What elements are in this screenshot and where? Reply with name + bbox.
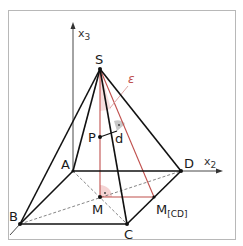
edge-sa bbox=[73, 69, 100, 171]
edge-ab bbox=[20, 171, 73, 224]
label-a: A bbox=[61, 158, 70, 171]
apothem-s-mcd bbox=[100, 69, 154, 197]
point-c bbox=[125, 222, 129, 226]
label-plane-epsilon: ε bbox=[128, 73, 135, 85]
point-m bbox=[98, 195, 102, 199]
plane-epsilon-pointer bbox=[110, 86, 128, 108]
label-p: P bbox=[88, 131, 96, 144]
x1-axis bbox=[10, 224, 20, 235]
label-m: M bbox=[92, 203, 103, 216]
label-mcd: M[CD] bbox=[156, 203, 187, 219]
pyramid-diagram bbox=[0, 0, 243, 246]
label-b: B bbox=[9, 210, 18, 223]
label-x3-axis: x3 bbox=[78, 28, 90, 42]
edge-sd bbox=[100, 69, 181, 171]
point-s bbox=[98, 67, 102, 71]
point-mcd bbox=[152, 195, 155, 198]
label-c: C bbox=[124, 228, 133, 241]
point-a bbox=[71, 169, 74, 172]
right-angle-marker-m bbox=[100, 185, 112, 197]
point-p bbox=[98, 135, 102, 139]
point-d bbox=[179, 169, 183, 173]
label-s: S bbox=[95, 53, 103, 66]
x3-axis-arrow-icon bbox=[71, 22, 76, 29]
edge-sb bbox=[20, 69, 100, 224]
label-d: D bbox=[184, 157, 194, 170]
x2-axis-arrow-icon bbox=[216, 169, 223, 174]
label-x2-axis: x2 bbox=[204, 156, 216, 170]
label-distance-d: d bbox=[115, 132, 123, 145]
point-b bbox=[18, 222, 22, 226]
